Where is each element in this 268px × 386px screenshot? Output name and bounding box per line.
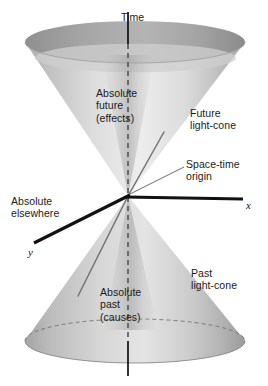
label-time: Time [121, 11, 144, 23]
light-cone-diagram-canvas: Time Absolute future (effects) Future li… [0, 0, 268, 386]
x-axis-line [126, 197, 243, 199]
label-y-axis: y [28, 246, 33, 258]
light-cone-diagram-graphic [0, 0, 268, 386]
label-absolute-elsewhere: Absolute elsewhere [11, 195, 59, 220]
label-past-light-cone: Past light-cone [191, 267, 237, 292]
label-x-axis: x [246, 199, 251, 211]
label-spacetime-origin: Space-time origin [186, 158, 240, 183]
label-absolute-future: Absolute future (effects) [96, 87, 137, 124]
label-absolute-past: Absolute past (causes) [100, 286, 141, 323]
label-future-light-cone: Future light-cone [190, 107, 236, 132]
